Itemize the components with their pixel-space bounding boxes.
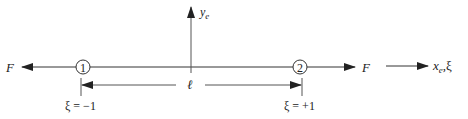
bar-element-diagram: F F 1 2 ye xe,ξ ℓ ξ = −1 ξ = +1 (0, 0, 468, 119)
length-dimension: ℓ (81, 77, 302, 96)
force-right-label: F (361, 60, 371, 75)
length-label: ℓ (187, 77, 193, 92)
y-axis: ye (191, 5, 209, 73)
xi-plus-one-label: ξ = +1 (284, 99, 315, 113)
node-2: 2 (293, 60, 307, 75)
node-2-label: 2 (297, 61, 303, 75)
x-axis: xe,ξ (386, 58, 452, 75)
y-axis-label: ye (199, 5, 209, 21)
x-axis-label: xe,ξ (432, 58, 452, 75)
node-1-label: 1 (80, 61, 86, 75)
xi-minus-one-label: ξ = −1 (65, 99, 96, 113)
force-left-label: F (5, 60, 15, 75)
node-1: 1 (76, 60, 90, 75)
